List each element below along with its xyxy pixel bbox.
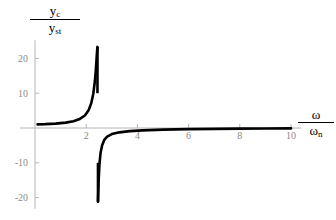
chart-figure: yc yst ω ωn 246810 2010-10-20 (0, 0, 336, 220)
y-tick-label: -10 (15, 157, 28, 168)
y-tick-label: -20 (15, 192, 28, 203)
plot-area: 246810 2010-10-20 (0, 0, 336, 220)
curve-branch-right (98, 128, 291, 201)
y-tick-label: 10 (18, 88, 28, 99)
data-curve (38, 47, 291, 202)
curve-branch-left (38, 47, 98, 124)
x-tick-label: 10 (286, 130, 296, 141)
x-tick-label: 2 (84, 130, 89, 141)
x-tick-label: 6 (186, 130, 191, 141)
y-tick-label: 20 (18, 53, 28, 64)
x-tick-label: 8 (237, 130, 242, 141)
axes-group (20, 40, 301, 209)
